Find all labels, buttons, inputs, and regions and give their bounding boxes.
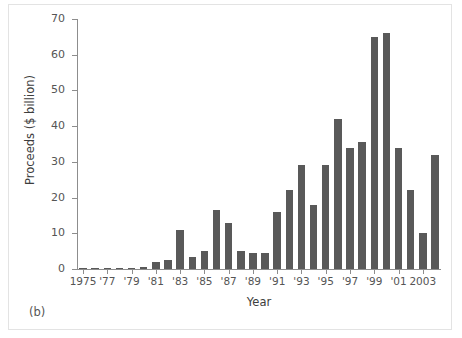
panel-label: (b)	[29, 305, 45, 319]
bar	[225, 223, 233, 269]
x-tick-mark	[83, 270, 84, 274]
bar	[395, 148, 403, 269]
bar	[91, 268, 99, 269]
x-axis-title: Year	[77, 295, 441, 309]
y-axis-line	[77, 19, 78, 269]
bar	[213, 210, 221, 269]
bar	[79, 268, 87, 269]
bar	[273, 212, 281, 269]
bar	[346, 148, 354, 269]
bar	[358, 142, 366, 269]
bar	[286, 190, 294, 269]
x-tick-mark	[107, 270, 108, 274]
x-tick-mark	[204, 270, 205, 274]
bar	[164, 260, 172, 269]
x-tick-label: 2003	[403, 276, 443, 287]
y-tick-mark	[72, 126, 77, 127]
y-tick-mark	[72, 233, 77, 234]
bar	[140, 267, 148, 269]
y-tick-label: 0	[35, 263, 65, 274]
x-tick-mark	[253, 270, 254, 274]
bar	[237, 251, 245, 269]
x-tick-mark	[301, 270, 302, 274]
bar	[322, 165, 330, 269]
bar	[310, 205, 318, 269]
x-tick-mark	[229, 270, 230, 274]
bar	[383, 33, 391, 269]
y-tick-label: 40	[35, 120, 65, 131]
y-tick-label: 50	[35, 84, 65, 95]
y-axis-title: Proceeds ($ billion)	[23, 60, 37, 200]
plot-area: 010203040506070 1975'77'79'81'83'85'87'8…	[9, 5, 453, 331]
y-tick-mark	[72, 269, 77, 270]
y-tick-label: 60	[35, 49, 65, 60]
bar	[261, 253, 269, 269]
bar	[104, 268, 112, 269]
y-tick-mark	[72, 19, 77, 20]
x-tick-mark	[277, 270, 278, 274]
x-tick-mark	[399, 270, 400, 274]
bar	[152, 262, 160, 269]
bar	[201, 251, 209, 269]
bar	[431, 155, 439, 269]
y-tick-label: 70	[35, 13, 65, 24]
figure-panel: 010203040506070 1975'77'79'81'83'85'87'8…	[8, 4, 452, 330]
y-tick-mark	[72, 162, 77, 163]
bar	[371, 37, 379, 269]
bar	[407, 190, 415, 269]
y-tick-label: 10	[35, 227, 65, 238]
y-tick-mark	[72, 90, 77, 91]
y-tick-mark	[72, 55, 77, 56]
y-tick-label: 20	[35, 192, 65, 203]
x-tick-mark	[156, 270, 157, 274]
x-tick-mark	[350, 270, 351, 274]
bar	[176, 230, 184, 269]
bar	[334, 119, 342, 269]
bar	[189, 257, 197, 270]
bar	[298, 165, 306, 269]
x-tick-mark	[423, 270, 424, 274]
bar	[419, 233, 427, 269]
x-tick-mark	[374, 270, 375, 274]
x-tick-mark	[326, 270, 327, 274]
y-tick-mark	[72, 198, 77, 199]
x-tick-mark	[180, 270, 181, 274]
bar	[116, 268, 124, 269]
y-tick-label: 30	[35, 156, 65, 167]
x-tick-mark	[132, 270, 133, 274]
bar	[249, 253, 257, 269]
bar	[128, 268, 136, 269]
